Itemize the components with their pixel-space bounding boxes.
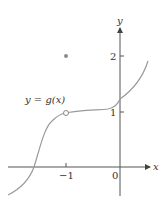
- x-tick-label-neg1: −1: [59, 170, 74, 181]
- function-label: y = g(x): [24, 94, 65, 105]
- open-circle-hole: [64, 111, 69, 116]
- y-tick-label-1: 1: [110, 107, 116, 118]
- x-axis-label: x: [153, 161, 159, 172]
- x-tick-label-0: 0: [112, 170, 118, 181]
- y-axis-label: y: [116, 15, 123, 26]
- curve-g: [8, 61, 148, 195]
- graph-canvas: y x 2 1 −1 0 y = g(x): [0, 0, 166, 205]
- filled-dot-point: [64, 54, 68, 58]
- y-tick-label-2: 2: [110, 51, 116, 62]
